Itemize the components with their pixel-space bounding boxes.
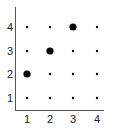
x-tick-label: 1 — [24, 113, 30, 125]
y-tick-label: 1 — [7, 92, 13, 104]
small-dot-marker — [49, 73, 51, 75]
small-dot-marker — [26, 97, 28, 99]
large-dot-marker — [23, 70, 30, 77]
y-tick-label: 3 — [7, 45, 13, 57]
x-tick-labels: 1234 — [24, 113, 100, 125]
small-dot-marker — [49, 97, 51, 99]
small-dot-marker — [49, 26, 51, 28]
y-tick-labels: 1234 — [7, 21, 13, 104]
small-dot-marker — [72, 97, 74, 99]
scatter-chart: 1234 1234 — [0, 0, 120, 133]
x-tick-label: 2 — [47, 113, 53, 125]
y-tick-label: 2 — [7, 68, 13, 80]
small-dot-marker — [96, 97, 98, 99]
y-tick-label: 4 — [7, 21, 13, 33]
large-dot-marker — [69, 23, 76, 30]
small-dot-marker — [72, 73, 74, 75]
small-dot-marker — [72, 50, 74, 52]
data-markers — [23, 23, 98, 99]
x-tick-label: 3 — [70, 113, 76, 125]
large-dot-marker — [46, 47, 53, 54]
small-dot-marker — [26, 50, 28, 52]
x-tick-label: 4 — [94, 113, 100, 125]
small-dot-marker — [96, 26, 98, 28]
small-dot-marker — [96, 50, 98, 52]
small-dot-marker — [96, 73, 98, 75]
axes — [15, 7, 104, 111]
small-dot-marker — [26, 26, 28, 28]
